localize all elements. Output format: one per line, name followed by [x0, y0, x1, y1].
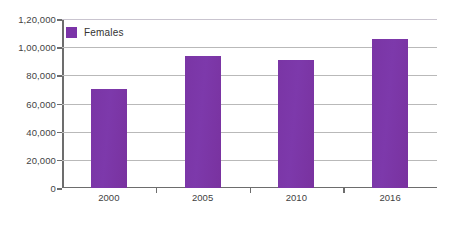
y-tick-label: 60,000	[26, 98, 56, 109]
y-tick-mark	[57, 47, 62, 49]
x-tick-label-2005: 2005	[192, 192, 213, 203]
bar-chart-figure: 020,00040,00060,00080,0001,00,0001,20,00…	[0, 0, 449, 225]
x-tick-mark	[156, 188, 158, 193]
bar-2005	[185, 56, 221, 188]
bar-2000	[91, 89, 127, 188]
y-tick-mark	[57, 188, 62, 190]
x-tick-mark	[250, 188, 252, 193]
bar-2010	[278, 60, 314, 188]
plot-area	[62, 19, 437, 188]
x-tick-label-2000: 2000	[98, 192, 119, 203]
y-tick-label: 1,00,000	[18, 42, 56, 53]
y-tick-mark	[57, 19, 62, 21]
legend-swatch-females	[66, 27, 77, 38]
y-tick-mark	[57, 160, 62, 162]
y-tick-mark	[57, 104, 62, 106]
y-tick-label: 80,000	[26, 70, 56, 81]
y-tick-label: 40,000	[26, 126, 56, 137]
y-tick-mark	[57, 132, 62, 134]
x-tick-label-2016: 2016	[380, 192, 401, 203]
gridline	[62, 19, 437, 20]
bar-2016	[372, 39, 408, 188]
chart-legend: Females	[66, 27, 124, 38]
y-tick-mark	[57, 75, 62, 77]
x-tick-label-2010: 2010	[286, 192, 307, 203]
y-tick-label: 0	[51, 183, 56, 194]
y-tick-label: 1,20,000	[18, 14, 56, 25]
x-tick-mark	[343, 188, 345, 193]
y-tick-label: 20,000	[26, 154, 56, 165]
legend-label-females: Females	[84, 27, 124, 38]
